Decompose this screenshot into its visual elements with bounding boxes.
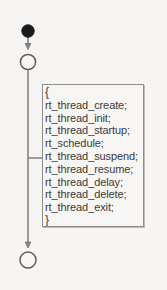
- activity-diagram: { rt_thread_create; rt_thread_init; rt_t…: [0, 0, 167, 290]
- code-note-box: { rt_thread_create; rt_thread_init; rt_t…: [42, 84, 144, 227]
- code-line-close-brace: }: [45, 214, 143, 227]
- state-node-bottom: [20, 252, 36, 268]
- arrowhead-to-bottom-state-icon: [25, 242, 31, 248]
- code-line-statement: rt_thread_init;: [45, 112, 143, 125]
- code-line-statement: rt_thread_resume;: [45, 163, 143, 176]
- code-line-statement: rt_thread_delay;: [45, 176, 143, 189]
- code-line-statement: rt_thread_create;: [45, 99, 143, 112]
- start-node: [22, 25, 34, 37]
- code-line-open-brace: {: [45, 86, 143, 99]
- code-line-statement: rt_thread_suspend;: [45, 150, 143, 163]
- code-line-statement: rt_thread_startup;: [45, 124, 143, 137]
- arrowhead-to-top-state-icon: [25, 44, 31, 50]
- code-line-statement: rt_thread_exit;: [45, 201, 143, 214]
- code-line-statement: rt_schedule;: [45, 137, 143, 150]
- code-line-statement: rt_thread_delete;: [45, 188, 143, 201]
- state-node-top: [20, 54, 35, 69]
